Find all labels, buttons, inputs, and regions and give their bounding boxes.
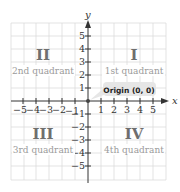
x-axis-label: x — [172, 95, 178, 106]
y-tick-label: −2 — [71, 121, 85, 132]
origin-point — [86, 99, 90, 103]
y-tick-label: −1 — [71, 108, 85, 119]
x-tick-label: −4 — [26, 104, 40, 115]
y-tick-label: 3 — [79, 56, 85, 67]
quadrant-i-label: 1st quadrant — [105, 66, 164, 76]
quadrant-ii-numeral: II — [36, 46, 50, 64]
x-tick-label: −3 — [39, 104, 53, 115]
quadrant-iv-label: 4th quadrant — [104, 145, 164, 155]
y-tick-label: −5 — [71, 160, 85, 171]
x-tick-label: −5 — [13, 104, 27, 115]
y-tick-label: −3 — [71, 134, 85, 145]
x-tick-label: 2 — [111, 104, 117, 115]
y-tick-label: 2 — [79, 69, 85, 80]
y-axis-arrow-icon — [85, 20, 91, 28]
x-axis-arrow-icon — [161, 98, 169, 104]
quadrant-iii-label: 3rd quadrant — [13, 145, 74, 155]
quadrant-ii-label: 2nd quadrant — [12, 66, 74, 76]
x-tick-label: 3 — [124, 104, 130, 115]
origin-callout: Origin (0, 0) — [90, 82, 156, 100]
quadrant-i-numeral: I — [130, 46, 137, 64]
y-tick-label: 5 — [79, 30, 85, 41]
y-axis-label: y — [84, 9, 91, 20]
x-tick-label: −2 — [52, 104, 66, 115]
quadrant-iv-numeral: IV — [125, 125, 144, 143]
y-tick-label: 4 — [79, 43, 85, 54]
x-tick-label: 4 — [137, 104, 143, 115]
x-tick-label: 1 — [98, 104, 104, 115]
y-tick-label: 1 — [79, 82, 85, 93]
x-tick-label: 5 — [150, 104, 156, 115]
origin-callout-text: Origin (0, 0) — [103, 86, 154, 95]
quadrant-iii-numeral: III — [32, 125, 53, 143]
coordinate-plane-diagram: x y −5 −4 −3 −2 −1 1 2 3 4 5 5 4 3 2 1 −… — [0, 0, 180, 192]
